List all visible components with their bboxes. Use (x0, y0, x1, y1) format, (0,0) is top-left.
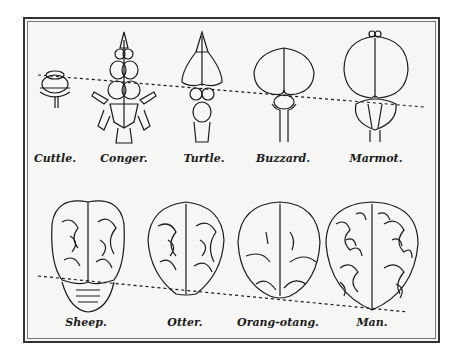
label-man: Man. (356, 316, 387, 329)
label-cuttle: Cuttle. (34, 152, 76, 165)
top-dashed-line (38, 75, 424, 107)
otter-brain-drawing (148, 202, 224, 295)
brain-illustrations (0, 0, 466, 363)
label-sheep: Sheep. (65, 316, 106, 329)
orang-otang-brain-drawing (238, 202, 320, 298)
label-otter: Otter. (167, 316, 202, 329)
label-marmot: Marmot. (350, 152, 403, 165)
label-buzzard: Buzzard. (256, 152, 310, 165)
label-conger: Conger. (100, 152, 147, 165)
buzzard-brain-drawing (254, 48, 314, 142)
sheep-brain-drawing (52, 201, 125, 312)
man-brain-drawing (326, 202, 418, 310)
cuttle-brain-drawing (40, 71, 70, 108)
label-turtle: Turtle. (183, 152, 224, 165)
marmot-brain-drawing (344, 31, 408, 142)
label-orang-otang: Orang-otang. (237, 316, 319, 329)
conger-brain-drawing (92, 32, 156, 143)
